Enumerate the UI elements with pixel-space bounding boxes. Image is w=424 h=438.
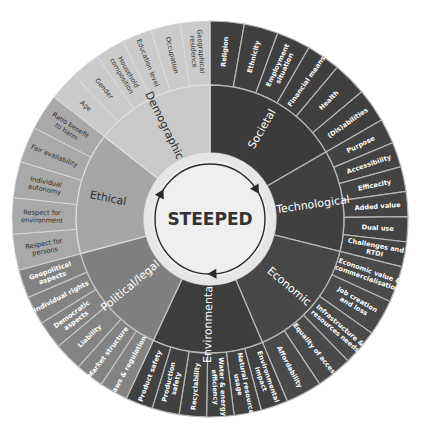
steeped-wheel-diagram: ReligionEthnicityEmploymentsituationFina… (0, 0, 424, 438)
center-label: STEEPED (167, 209, 252, 229)
category-label: Environmental (201, 283, 215, 363)
subcategory-label: Geographicalresidence (188, 29, 207, 74)
subcategory-label: Respect forenvironment (21, 209, 64, 225)
subcategory-label: Dual use (361, 223, 394, 233)
center-hub: STEEPED (144, 153, 276, 285)
